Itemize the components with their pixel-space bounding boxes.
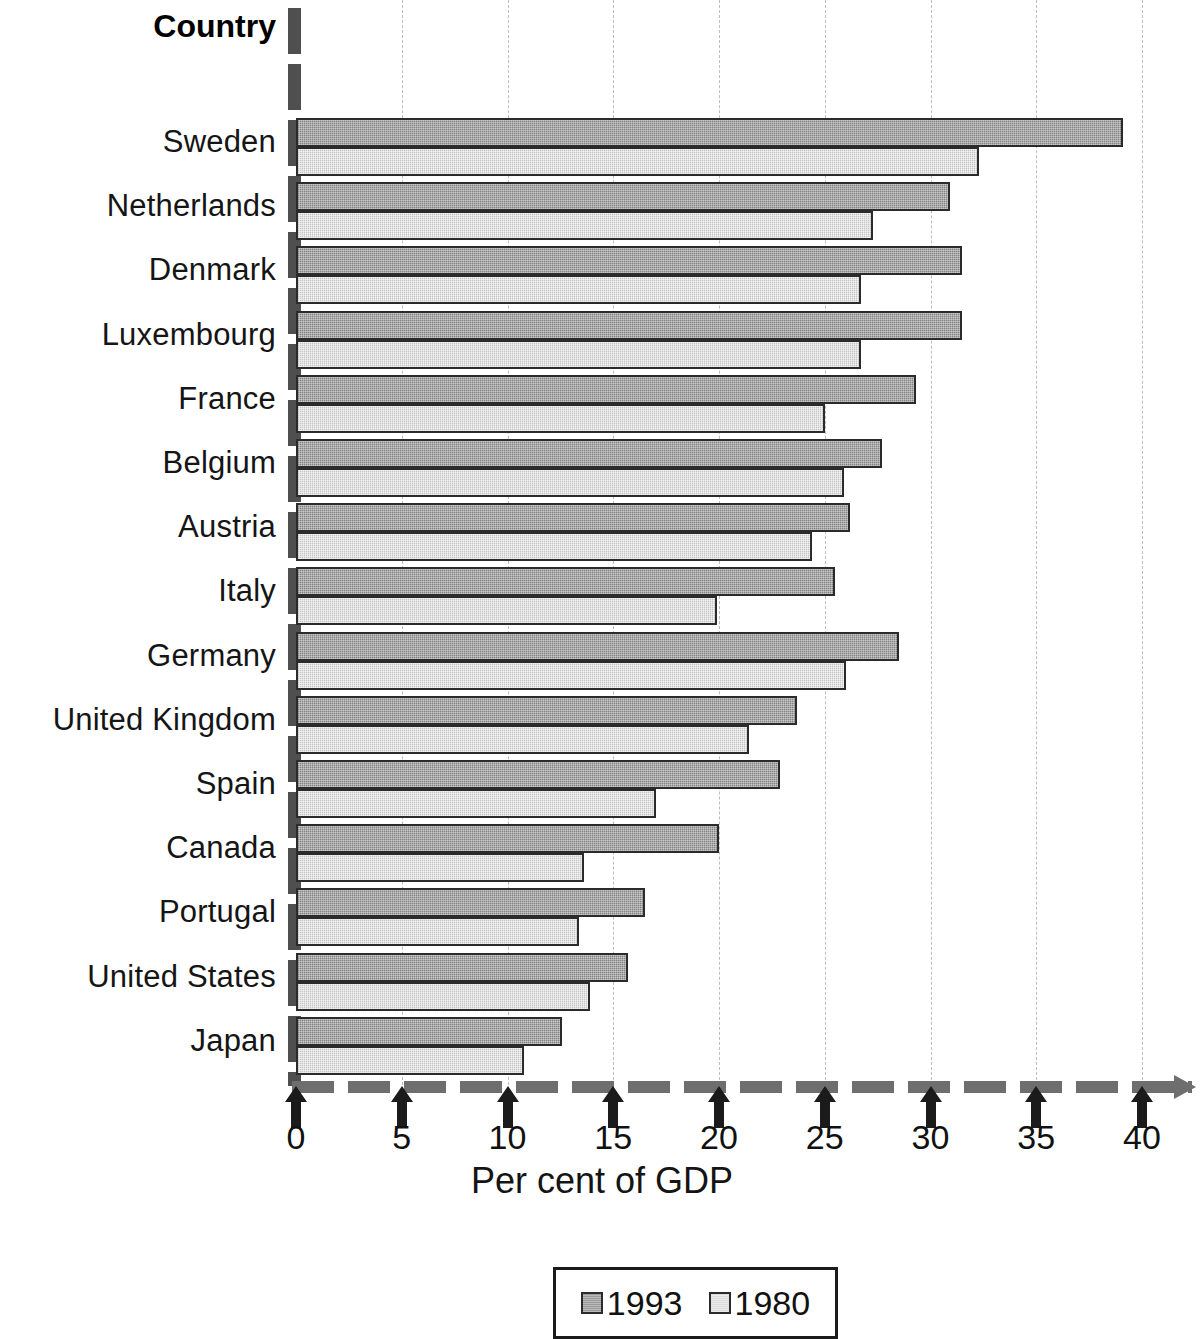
- bar-1980: [296, 725, 749, 754]
- bar-1993: [296, 632, 899, 661]
- x-tick-label: 5: [367, 1118, 437, 1156]
- bar-1993: [296, 311, 962, 340]
- x-axis-arrow-icon: [1174, 1075, 1196, 1099]
- x-tick-label: 20: [684, 1118, 754, 1156]
- category-label: France: [178, 382, 276, 416]
- bar-1993: [296, 182, 950, 211]
- bar-1980: [296, 982, 590, 1011]
- bar-1993: [296, 888, 645, 917]
- bar-1993: [296, 246, 962, 275]
- category-label: Portugal: [159, 895, 276, 929]
- category-label: Canada: [166, 831, 276, 865]
- category-label: Belgium: [163, 446, 276, 480]
- category-label: Denmark: [149, 253, 276, 287]
- bar-1993: [296, 824, 719, 853]
- bar-1980: [296, 853, 584, 882]
- legend-swatch-1993-icon: [581, 1292, 603, 1314]
- x-tick-label: 35: [1001, 1118, 1071, 1156]
- x-axis-title: Per cent of GDP: [0, 1160, 1204, 1202]
- bar-1993: [296, 1017, 562, 1046]
- legend-entry-1993: 1993: [581, 1284, 683, 1323]
- category-label: United Kingdom: [53, 703, 276, 737]
- page-title: Country: [153, 8, 276, 45]
- legend-label-1993: 1993: [607, 1284, 683, 1323]
- bar-1993: [296, 375, 916, 404]
- x-tick-label: 30: [896, 1118, 966, 1156]
- bar-1980: [296, 789, 656, 818]
- x-tick-label: 25: [790, 1118, 860, 1156]
- category-label: Italy: [218, 574, 276, 608]
- bar-1980: [296, 404, 825, 433]
- bar-1993: [296, 760, 780, 789]
- x-tick-label: 40: [1107, 1118, 1177, 1156]
- category-label: Sweden: [163, 125, 276, 159]
- bar-1980: [296, 596, 717, 625]
- x-axis: [292, 1081, 1192, 1093]
- category-label: Netherlands: [107, 189, 276, 223]
- x-tick-label: 0: [261, 1118, 331, 1156]
- bar-1993: [296, 439, 882, 468]
- plot-area: [296, 0, 1204, 1085]
- bar-1980: [296, 468, 844, 497]
- gridline-35: [1036, 0, 1037, 1085]
- category-label: Austria: [178, 510, 276, 544]
- category-label: United States: [87, 960, 276, 994]
- bar-1993: [296, 567, 835, 596]
- category-label: Spain: [196, 767, 276, 801]
- bar-1980: [296, 661, 846, 690]
- bar-1993: [296, 503, 850, 532]
- category-label: Japan: [191, 1024, 276, 1058]
- bar-1980: [296, 275, 861, 304]
- x-tick-label: 10: [473, 1118, 543, 1156]
- legend: 1993 1980: [553, 1267, 838, 1339]
- bar-1980: [296, 340, 861, 369]
- bar-1993: [296, 696, 797, 725]
- bar-1980: [296, 917, 579, 946]
- category-axis-labels: Country SwedenNetherlandsDenmarkLuxembou…: [0, 0, 282, 1085]
- category-label: Germany: [147, 639, 276, 673]
- bar-1980: [296, 1046, 524, 1075]
- legend-entry-1980: 1980: [709, 1284, 811, 1323]
- bar-1993: [296, 953, 628, 982]
- bar-1980: [296, 147, 979, 176]
- bar-1980: [296, 211, 873, 240]
- legend-label-1980: 1980: [735, 1284, 811, 1323]
- x-tick-label: 15: [578, 1118, 648, 1156]
- bar-chart: Country SwedenNetherlandsDenmarkLuxembou…: [0, 0, 1204, 1339]
- bar-1993: [296, 118, 1123, 147]
- gridline-40: [1142, 0, 1143, 1085]
- category-label: Luxembourg: [102, 318, 276, 352]
- bar-1980: [296, 532, 812, 561]
- legend-swatch-1980-icon: [709, 1292, 731, 1314]
